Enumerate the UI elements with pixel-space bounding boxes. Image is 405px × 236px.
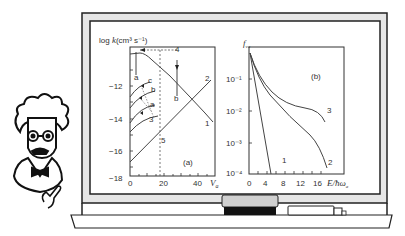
xtick-b-0: 0 [247, 179, 252, 188]
curve-label-b-1: 1 [282, 156, 287, 165]
xtick-b-16: 16 [313, 179, 322, 188]
xtick-a-40: 40 [193, 179, 202, 188]
curve-label-a-4: 4 [175, 45, 180, 54]
curve-label-a-5: 5 [161, 136, 166, 145]
ytick-a-14: −14 [109, 115, 123, 124]
ytick-b-1: 10⁻¹ [226, 75, 242, 84]
chalk-tray [71, 215, 392, 228]
ytick-a-12: −12 [109, 82, 123, 91]
curve-label-a-1: 1 [205, 119, 210, 128]
chalk-stick[interactable] [288, 206, 346, 215]
curve-label-a-3: 3 [149, 115, 154, 124]
ylabel-a-pre: log [99, 36, 112, 45]
ytick-a-16: −16 [109, 147, 123, 156]
label-a-top: a [134, 73, 139, 82]
ytick-b-2: 10⁻² [226, 107, 242, 116]
xtick-a-20: 20 [159, 179, 168, 188]
eraser[interactable] [222, 195, 278, 215]
panel-label-a: (a) [183, 158, 193, 167]
xtick-b-4: 4 [263, 179, 268, 188]
curve-label-a-2: 2 [205, 74, 210, 83]
professor-mustache [32, 149, 48, 155]
ylabel-a-post: (cm³ s⁻¹) [116, 36, 148, 45]
curve-label-b-2: 2 [328, 158, 333, 167]
professor-cartoon [14, 94, 68, 208]
label-b: b [151, 85, 156, 94]
label-a: a [150, 100, 155, 109]
svg-text:log k(cm³ s⁻¹): log k(cm³ s⁻¹) [99, 35, 148, 45]
panel-label-b: (b) [311, 72, 321, 81]
xtick-b-8: 8 [281, 179, 286, 188]
ytick-b-4: 10⁻⁴ [226, 169, 243, 178]
curve-label-b-3: 3 [327, 106, 332, 115]
xtick-b-12: 12 [296, 179, 305, 188]
professor-body [14, 158, 62, 192]
xlabel-b: E/ħωa [326, 178, 349, 189]
ytick-b-3: 10⁻³ [226, 139, 242, 148]
ytick-a-18: −18 [109, 174, 123, 183]
label-c: c [148, 76, 152, 85]
xtick-a-0: 0 [128, 179, 133, 188]
label-b-right: b [174, 94, 179, 103]
